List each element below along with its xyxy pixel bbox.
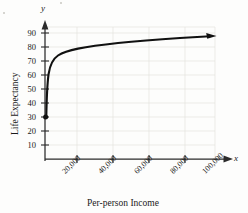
marked-point: [43, 115, 48, 120]
x-axis-variable-letter: x: [234, 154, 238, 163]
ytick-label: 90: [14, 29, 36, 38]
chart-plot-area: [0, 0, 248, 213]
y-axis-title: Life Expectancy: [11, 52, 21, 156]
chart-figure: 90 80 70 60 50 40 30 20 10 20,000 40,000…: [0, 0, 248, 213]
scan-speck: [3, 12, 5, 14]
ytick-label: 80: [14, 43, 36, 52]
scan-speck: [60, 2, 62, 4]
y-axis-variable-letter: y: [41, 4, 45, 13]
data-curve: [46, 36, 210, 117]
x-axis-title: Per-person Income: [48, 199, 198, 209]
